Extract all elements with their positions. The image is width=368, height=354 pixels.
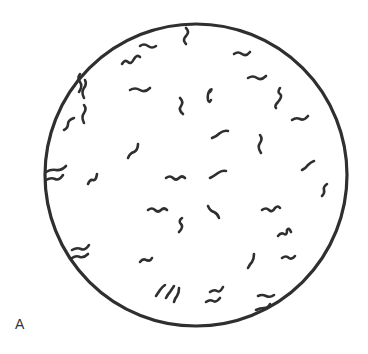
spirochete <box>72 254 88 258</box>
spirochete <box>184 28 188 44</box>
spirochete <box>128 144 138 158</box>
spirochete <box>262 207 280 212</box>
spirochete <box>258 295 274 297</box>
microscope-field-figure <box>0 0 368 354</box>
spirochete <box>140 258 152 262</box>
spirochete <box>282 256 295 259</box>
spirochete <box>130 88 150 91</box>
spirochete <box>208 89 212 102</box>
spirochete <box>179 218 182 232</box>
spirochete <box>64 118 74 130</box>
spirochete <box>180 98 183 114</box>
microscope-field-circle <box>45 24 347 326</box>
spirochete <box>210 171 226 178</box>
spirochete <box>166 286 174 298</box>
spirochete <box>259 135 262 153</box>
spirochete <box>248 254 254 268</box>
spirochete <box>302 161 314 170</box>
spirochete <box>275 88 281 108</box>
spirochete <box>148 209 167 212</box>
spirochete <box>72 245 89 250</box>
spirochete <box>83 80 86 98</box>
spirochete <box>234 52 250 55</box>
spirochete <box>292 116 308 120</box>
spirochete <box>46 166 66 172</box>
spirochete <box>208 206 219 218</box>
spirochete <box>122 56 140 64</box>
spirochete <box>206 298 220 302</box>
spirochete <box>210 287 223 292</box>
spirochete <box>322 184 327 196</box>
spirochete <box>278 229 291 236</box>
spirochete <box>174 288 179 302</box>
panel-label: A <box>15 316 24 332</box>
spirochete <box>88 174 97 184</box>
spirochete <box>156 285 165 296</box>
spirochete <box>212 131 228 138</box>
spirochete <box>166 177 185 180</box>
spirochete <box>46 175 63 180</box>
spirochete <box>248 76 266 79</box>
spirochete <box>83 105 86 123</box>
spirochete <box>140 45 156 48</box>
